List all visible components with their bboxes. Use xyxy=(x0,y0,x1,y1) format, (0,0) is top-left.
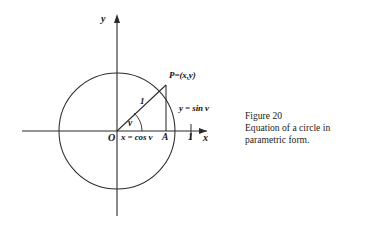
radius-length-label: 1 xyxy=(140,97,144,106)
figure-container: y x O P=(x,y) 1 v y = sin v x = cos v A … xyxy=(0,0,365,247)
y-component-label: y = sin v xyxy=(179,104,209,113)
y-axis-label: y xyxy=(101,14,105,24)
angle-label: v xyxy=(128,119,132,129)
y-axis-arrowhead xyxy=(114,14,120,23)
point-p-label: P=(x,y) xyxy=(169,71,196,80)
unit-tick-label: 1 xyxy=(188,133,193,143)
caption-line-2: parametric form. xyxy=(245,134,363,146)
x-component-label: x = cos v xyxy=(121,133,152,142)
origin-label: O xyxy=(108,133,115,143)
caption-title: Figure 20 xyxy=(245,110,363,122)
point-a-label: A xyxy=(162,133,168,143)
x-axis-label: x xyxy=(203,133,208,143)
angle-arc xyxy=(134,113,142,131)
radius-segment-op xyxy=(117,85,166,131)
figure-caption: Figure 20 Equation of a circle in parame… xyxy=(245,110,363,147)
caption-line-1: Equation of a circle in xyxy=(245,122,363,134)
